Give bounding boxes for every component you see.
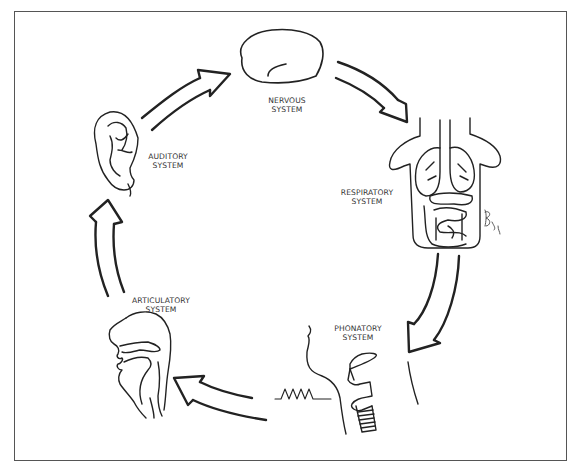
label-respiratory-system: RESPIRATORY SYSTEM — [330, 188, 404, 206]
larynx-icon — [307, 326, 418, 434]
arrow-phonatory-to-articulatory-icon — [174, 376, 266, 420]
artist-signature — [485, 210, 500, 234]
label-auditory-system: AUDITORY SYSTEM — [138, 152, 198, 170]
brain-icon — [241, 30, 323, 83]
label-articulatory-system: ARTICULATORY SYSTEM — [122, 296, 200, 314]
torso-organs-icon — [390, 118, 501, 248]
arrow-respiratory-to-phonatory-icon — [408, 254, 459, 352]
label-phonatory-system: PHONATORY SYSTEM — [323, 324, 393, 342]
sound-wave-icon — [275, 389, 331, 399]
head-profile-icon — [109, 312, 171, 418]
arrow-articulatory-to-auditory-icon — [90, 200, 124, 296]
label-nervous-system: NERVOUS SYSTEM — [252, 96, 322, 114]
ear-icon — [95, 112, 138, 196]
arrow-auditory-to-nervous-icon — [142, 70, 230, 130]
arrow-nervous-to-respiratory-icon — [336, 62, 407, 122]
